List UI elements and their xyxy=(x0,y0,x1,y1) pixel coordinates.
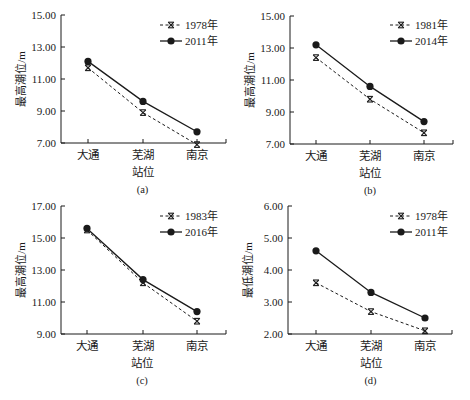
y-tick-label: 13.00 xyxy=(31,41,56,53)
circle-marker-icon xyxy=(312,41,319,48)
circle-marker-icon xyxy=(421,314,428,321)
y-tick-label: 15.00 xyxy=(260,10,285,22)
x-axis-title: 站位 xyxy=(359,166,381,179)
legend-circle-icon xyxy=(397,37,404,44)
y-tick-label: 7.00 xyxy=(37,137,57,149)
circle-marker-icon xyxy=(139,98,146,105)
chart-panel-c: 9.0011.0013.0015.0017.00大通芜湖南京站位(c)最高潮位/… xyxy=(14,200,226,387)
series-1978年 xyxy=(85,65,200,147)
y-tick-label: 13.00 xyxy=(31,264,56,276)
asterisk-marker-icon xyxy=(194,318,200,324)
x-tick-label: 大通 xyxy=(305,149,328,162)
circle-marker-icon xyxy=(193,308,200,315)
circle-marker-icon xyxy=(420,118,427,125)
legend-label: 1978年 xyxy=(185,18,218,31)
circle-marker-icon xyxy=(312,247,319,254)
series-line xyxy=(316,251,425,318)
y-tick-label: 9.00 xyxy=(37,105,57,117)
series-line xyxy=(88,68,197,145)
x-tick-label: 南京 xyxy=(186,339,208,352)
y-tick-label: 2.00 xyxy=(264,328,284,340)
legend-label: 1983年 xyxy=(185,209,218,222)
y-axis-title: 最高潮位/m xyxy=(14,242,27,298)
y-tick-label: 15.00 xyxy=(31,232,56,244)
legend-label: 1981年 xyxy=(415,18,448,31)
asterisk-marker-icon xyxy=(367,96,373,102)
legend-label: 2016年 xyxy=(185,225,218,238)
panel-caption: (d) xyxy=(364,375,377,387)
series-1978年 xyxy=(313,280,428,334)
x-tick-label: 大通 xyxy=(77,148,100,161)
chart-panel-b: 7.009.0011.0013.0015.00大通芜湖南京站位(b)最高潮位/m… xyxy=(243,10,453,197)
legend-label: 2014年 xyxy=(415,34,448,47)
asterisk-marker-icon xyxy=(140,110,146,116)
series-1981年 xyxy=(313,55,427,136)
series-line xyxy=(87,228,197,311)
chart-panel-a: 7.009.0011.0013.0015.00大通芜湖南京站位(a)最高潮位/m… xyxy=(14,9,226,196)
y-tick-label: 7.00 xyxy=(266,138,286,150)
x-tick-label: 南京 xyxy=(413,149,435,162)
y-tick-label: 15.00 xyxy=(31,9,56,21)
legend: 1981年2014年 xyxy=(390,18,448,47)
y-tick-label: 11.00 xyxy=(32,73,57,85)
circle-marker-icon xyxy=(193,128,200,135)
y-axis-title: 最低潮位/m xyxy=(241,242,254,298)
circle-marker-icon xyxy=(84,58,91,65)
x-axis-title: 站位 xyxy=(131,356,153,369)
x-tick-label: 芜湖 xyxy=(359,149,381,162)
x-axis-title: 站位 xyxy=(132,165,154,178)
panel-caption: (a) xyxy=(137,184,149,196)
series-2014年 xyxy=(312,41,427,125)
legend-label: 1978年 xyxy=(415,209,448,222)
panel-caption: (c) xyxy=(136,375,148,387)
legend-label: 2011年 xyxy=(185,34,218,47)
legend: 1978年2011年 xyxy=(160,18,218,47)
y-tick-label: 13.00 xyxy=(260,42,285,54)
legend-circle-icon xyxy=(167,228,174,235)
y-tick-label: 11.00 xyxy=(261,74,286,86)
asterisk-marker-icon xyxy=(368,309,374,315)
y-axis-title: 最高潮位/m xyxy=(14,51,27,107)
y-tick-label: 3.00 xyxy=(264,296,284,308)
x-tick-label: 芜湖 xyxy=(132,339,154,352)
circle-marker-icon xyxy=(366,83,373,90)
legend: 1978年2011年 xyxy=(390,209,448,238)
legend-label: 2011年 xyxy=(415,225,448,238)
x-tick-label: 大通 xyxy=(76,339,99,352)
y-tick-label: 11.00 xyxy=(32,296,57,308)
y-tick-label: 6.00 xyxy=(264,200,284,212)
asterisk-marker-icon xyxy=(313,55,319,61)
asterisk-marker-icon xyxy=(421,130,427,136)
y-tick-label: 5.00 xyxy=(264,232,284,244)
asterisk-marker-icon xyxy=(85,65,91,71)
circle-marker-icon xyxy=(139,276,146,283)
y-tick-label: 9.00 xyxy=(37,328,57,340)
x-tick-label: 芜湖 xyxy=(360,339,382,352)
circle-marker-icon xyxy=(367,289,374,296)
y-tick-label: 4.00 xyxy=(264,264,284,276)
x-tick-label: 南京 xyxy=(414,339,436,352)
panel-caption: (b) xyxy=(364,185,377,197)
x-axis-title: 站位 xyxy=(360,356,382,369)
x-tick-label: 南京 xyxy=(186,148,208,161)
series-line xyxy=(316,58,424,133)
y-axis-title: 最高潮位/m xyxy=(243,52,256,108)
chart-panel-d: 2.003.004.005.006.00大通芜湖南京站位(d)最低潮位/m197… xyxy=(241,200,452,387)
legend: 1983年2016年 xyxy=(160,209,218,238)
x-tick-label: 芜湖 xyxy=(132,148,154,161)
y-tick-label: 9.00 xyxy=(266,106,286,118)
circle-marker-icon xyxy=(83,225,90,232)
series-line xyxy=(88,61,197,131)
legend-circle-icon xyxy=(167,37,174,44)
series-2011年 xyxy=(84,58,200,136)
legend-circle-icon xyxy=(397,228,404,235)
figure-four-panel-tide-levels: 7.009.0011.0013.0015.00大通芜湖南京站位(a)最高潮位/m… xyxy=(0,0,470,400)
series-2016年 xyxy=(83,225,200,315)
x-tick-label: 大通 xyxy=(305,339,328,352)
asterisk-marker-icon xyxy=(313,280,319,286)
y-tick-label: 17.00 xyxy=(31,200,56,212)
